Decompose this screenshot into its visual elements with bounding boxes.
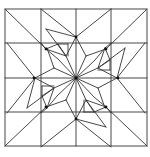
quilt-block-svg [0, 0, 150, 157]
intersection-dot [75, 118, 78, 121]
intersection-dot [33, 77, 36, 80]
quilt-block-figure [0, 0, 150, 157]
intersection-dot [45, 106, 48, 109]
intersection-dot [45, 48, 48, 51]
intersection-dot [117, 77, 120, 80]
intersection-dot [75, 36, 78, 39]
intersection-dot [105, 106, 108, 109]
intersection-dot [105, 48, 108, 51]
intersection-dot [75, 77, 78, 80]
